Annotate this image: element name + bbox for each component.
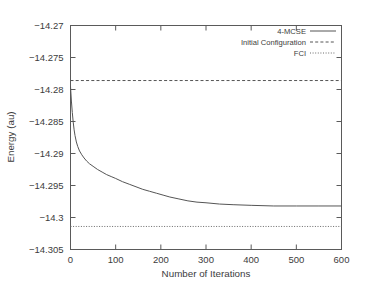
x-axis-tick-label: 0 — [68, 254, 73, 265]
plot-frame — [71, 26, 342, 250]
x-axis-tick-label: 600 — [334, 254, 350, 265]
x-axis-tick-label: 500 — [288, 254, 304, 265]
legend-label-initial-configuration: Initial Configuration — [241, 38, 306, 47]
legend-label-fci: FCI — [294, 49, 306, 58]
y-axis-tick-label: −14.295 — [29, 180, 64, 191]
legend-label-4-mcse: 4-MCSE — [277, 27, 306, 36]
data-series-layer — [71, 81, 342, 227]
chart-legend: 4-MCSEInitial ConfigurationFCI — [241, 27, 336, 58]
y-axis-tick-label: −14.27 — [34, 20, 63, 31]
x-axis-tick-label: 400 — [243, 254, 259, 265]
y-axis-title: Energy (au) — [5, 111, 16, 162]
x-axis-tick-label: 300 — [198, 254, 214, 265]
y-axis-tick-label: −14.3 — [39, 212, 63, 223]
x-axis-tick-label: 200 — [153, 254, 169, 265]
energy-convergence-line-chart: −14.27−14.275−14.28−14.285−14.29−14.295−… — [0, 0, 366, 287]
y-axis-tick-label: −14.305 — [29, 244, 64, 255]
y-axis-tick-label: −14.285 — [29, 116, 64, 127]
x-axis-ticks — [71, 26, 342, 250]
series-line-4-mcse — [71, 86, 342, 206]
x-axis-tick-label: 100 — [108, 254, 124, 265]
x-axis-title: Number of Iterations — [162, 268, 251, 279]
y-axis-tick-label: −14.29 — [34, 148, 63, 159]
y-axis-tick-label: −14.28 — [34, 84, 63, 95]
y-axis-tick-labels: −14.27−14.275−14.28−14.285−14.29−14.295−… — [29, 20, 64, 255]
y-axis-ticks — [71, 26, 342, 250]
chart-figure: −14.27−14.275−14.28−14.285−14.29−14.295−… — [0, 0, 366, 287]
y-axis-tick-label: −14.275 — [29, 52, 64, 63]
x-axis-tick-labels: 0100200300400500600 — [68, 254, 350, 265]
